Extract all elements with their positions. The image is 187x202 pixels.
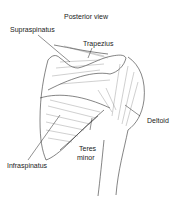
scapular-spine [48,55,126,90]
label-supraspinatus: Supraspinatus [10,26,55,34]
label-deltoid: Deltoid [147,117,169,125]
label-infraspinatus: Infraspinatus [7,162,47,170]
scapula-medial-border [40,60,48,160]
leader-teres-minor [90,118,92,130]
arm-outline-left [98,140,104,196]
label-teres-minor-2: minor [77,154,95,162]
arm-outline-right [116,130,128,195]
deltoid-outline [128,57,144,130]
leader-deltoid [125,105,140,116]
diagram-title: Posterior view [64,13,108,21]
leader-supraspinatus [38,35,70,62]
label-trapezius: Trapezius [83,40,113,48]
label-teres-minor-1: Teres [79,145,96,153]
muscle-fibers [46,46,138,142]
